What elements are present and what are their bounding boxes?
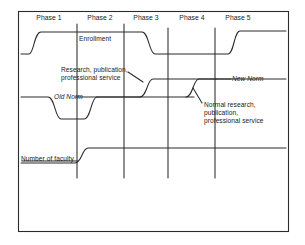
- phase-header-3: Phase 3: [126, 14, 166, 22]
- phase-header-5: Phase 5: [218, 14, 258, 22]
- normal-research-label: Normal research, publication, profession…: [204, 101, 264, 126]
- number-of-faculty-label: Number of faculty: [21, 155, 74, 163]
- new-norm-label: New Norm: [232, 75, 264, 83]
- figure-root: Phase 1 Phase 2 Phase 3 Phase 4 Phase 5 …: [0, 0, 305, 245]
- old-norm-label: Old Norm: [54, 93, 83, 101]
- phase-header-4: Phase 4: [172, 14, 212, 22]
- enrollment-label: Enrollment: [79, 35, 111, 43]
- research-publication-label: Research, publication, professional serv…: [61, 66, 128, 82]
- phase-header-2: Phase 2: [80, 14, 120, 22]
- phase-header-1: Phase 1: [29, 14, 69, 22]
